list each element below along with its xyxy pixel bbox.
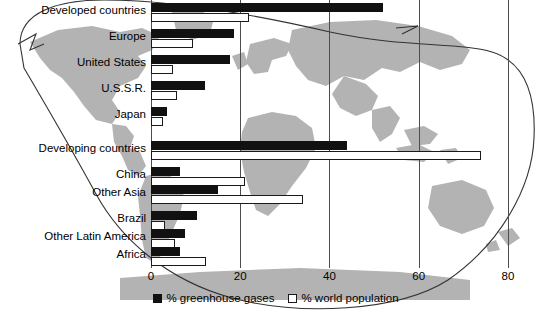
bar-greenhouse-gases [151, 107, 167, 116]
bar-world-population [151, 117, 163, 126]
category-label: China [116, 168, 146, 180]
bar-world-population [151, 151, 481, 160]
category-label: Japan [115, 108, 146, 120]
bar-greenhouse-gases [151, 81, 205, 90]
bar-world-population [151, 39, 193, 48]
legend-item-world-population: % world population [288, 292, 398, 304]
bar-greenhouse-gases [151, 185, 218, 194]
category-label: United States [77, 56, 146, 68]
legend-swatch-population-icon [288, 294, 297, 303]
bar-world-population [151, 91, 177, 100]
legend-label-world-population: % world population [301, 292, 398, 304]
x-tick-label: 0 [148, 270, 154, 282]
category-label: Africa [117, 248, 146, 260]
bar-world-population [151, 257, 206, 266]
bar-greenhouse-gases [151, 211, 197, 220]
greenhouse-gas-population-chart: Developed countriesEuropeUnited StatesU.… [0, 0, 552, 314]
x-tick-label: 40 [323, 270, 336, 282]
category-label: Brazil [117, 212, 146, 224]
x-axis: 020406080 [151, 268, 552, 288]
category-label: U.S.S.R. [101, 82, 146, 94]
bar-greenhouse-gases [151, 55, 230, 64]
category-label: Developing countries [39, 142, 146, 154]
bar-greenhouse-gases [151, 229, 185, 238]
legend-item-greenhouse-gases: % greenhouse gases [153, 292, 274, 304]
bar-greenhouse-gases [151, 167, 180, 176]
bar-world-population [151, 195, 303, 204]
bar-greenhouse-gases [151, 3, 383, 12]
x-tick-label: 80 [502, 270, 515, 282]
x-tick-label: 20 [234, 270, 247, 282]
bar-greenhouse-gases [151, 141, 347, 150]
category-label: Europe [109, 30, 146, 42]
category-label: Other Asia [92, 186, 146, 198]
chart-legend: % greenhouse gases % world population [0, 292, 552, 304]
legend-label-greenhouse-gases: % greenhouse gases [166, 292, 274, 304]
bar-greenhouse-gases [151, 29, 234, 38]
legend-swatch-greenhouse-icon [153, 294, 162, 303]
category-label: Other Latin America [44, 230, 146, 242]
category-label: Developed countries [41, 4, 146, 16]
bar-world-population [151, 65, 173, 74]
category-labels: Developed countriesEuropeUnited StatesU.… [0, 0, 149, 268]
bar-world-population [151, 13, 249, 22]
x-tick-label: 60 [412, 270, 425, 282]
bar-greenhouse-gases [151, 247, 180, 256]
